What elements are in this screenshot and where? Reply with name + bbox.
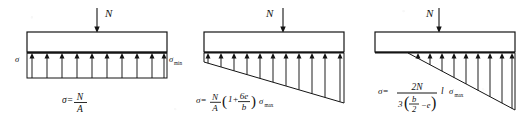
formula-1: σ= N A <box>62 92 87 114</box>
formula-2: σ= N A ( 1+ 6e b ) σ max <box>196 91 274 113</box>
diagram-uniform-stress-distribution: N <box>15 7 182 114</box>
formula-2-tail-subscript: max <box>265 102 274 108</box>
diagram-triangular-stress-distribution: N <box>375 7 515 114</box>
formula-2-fraction-denominator: b <box>242 102 247 112</box>
formula-3-lhs: σ= <box>378 86 389 96</box>
load-label-1: N <box>104 7 113 19</box>
load-arrow-3 <box>436 8 441 33</box>
formula-3-tail-symbol: σ <box>449 86 454 96</box>
formula-3-tail-subscript: max <box>455 92 464 98</box>
formula-2-denominator: A <box>211 103 218 113</box>
formula-2-lhs: σ= <box>196 95 207 105</box>
formula-2-paren-open: ( <box>222 93 227 110</box>
diagram-trapezoidal-stress-distribution: N <box>196 7 344 113</box>
stress-label-right-1-subscript: min <box>174 60 182 66</box>
pressure-arrows-1 <box>30 53 167 78</box>
formula-1-numerator: N <box>76 92 84 102</box>
engineering-figure: N <box>0 0 531 124</box>
formula-3-denominator-fraction-denominator: 2 <box>412 104 417 114</box>
formula-1-denominator: A <box>76 104 83 114</box>
beam-block-3 <box>375 32 515 53</box>
formula-3-numerator: 2N <box>411 82 423 92</box>
formula-3-denominator-minus-e: −e <box>421 100 431 110</box>
beam-block-1 <box>27 32 167 53</box>
figure-root: N <box>0 0 531 124</box>
load-arrow-2 <box>280 8 285 33</box>
formula-1-lhs: σ= <box>62 95 73 105</box>
formula-3-tail-l: l <box>441 86 444 96</box>
stress-label-left-1: σ <box>15 54 20 64</box>
formula-2-paren-close: ) <box>251 93 256 110</box>
formula-2-fraction-numerator: 6e <box>240 91 249 101</box>
stress-label-right-1: σ min <box>169 54 182 66</box>
formula-2-tail-symbol: σ <box>259 96 264 106</box>
load-label-3: N <box>425 7 434 19</box>
load-label-2: N <box>265 7 274 19</box>
formula-3-denominator-fraction-numerator: b <box>412 94 416 104</box>
formula-3-denominator-lead: 3 <box>397 99 403 109</box>
formula-2-one-plus: 1+ <box>228 94 239 104</box>
formula-3-denominator-paren-open: ( <box>404 94 409 112</box>
formula-3: σ= 2N 3 ( b 2 −e ) l σ max <box>378 82 464 114</box>
formula-3-denominator-paren-close: ) <box>431 94 436 112</box>
beam-block-2 <box>204 32 344 53</box>
formula-2-numerator: N <box>211 92 219 102</box>
load-arrow-1 <box>94 8 99 33</box>
